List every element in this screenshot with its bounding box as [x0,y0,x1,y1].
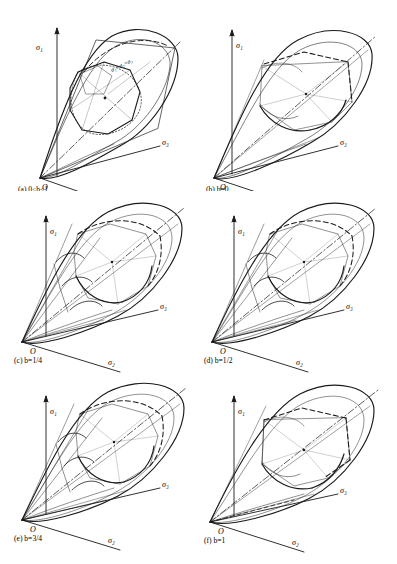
label-sigma2: σ₂ [292,538,299,547]
panel-caption-b: (b) b=0 [206,185,229,191]
label-sigma3: σ₃ [340,138,347,147]
hidden-top-edge [78,221,160,236]
label-sigma1: σ₁ [50,407,57,416]
cross-section-hexagon [260,62,352,130]
panel-caption-a: (a) 0≤b≤1 [18,185,48,191]
hidden-cap-edge [84,40,168,72]
axis-sigma2 [40,178,120,191]
label-sigma2: σ₂ [108,358,115,367]
label-origin: O [30,347,36,356]
label-origin: O [218,527,224,536]
outer-yield-surface [40,30,178,179]
panel-b: σ₁ σ₃ σ₂ O (b) b=0 [198,6,396,191]
outer-yield-surface [214,31,372,179]
cone-generators [22,404,102,520]
label-sigma1: σ₁ [50,227,57,236]
label-sigma1: σ₁ [238,407,245,416]
panel-c: σ₁ σ₃ σ₂ O (c) b=1/4 [0,194,198,379]
panel-e: σ₁ σ₃ σ₂ O (e) b=3/4 [0,372,198,557]
label-sigma3: σ₃ [160,302,167,311]
label-sigma1: σ₁ [236,41,243,50]
label-sigma3: σ₃ [162,480,169,489]
panel-caption-e: (e) b=3/4 [14,534,42,543]
axis-sigma3 [212,310,344,342]
label-sigma2: σ₂ [296,358,303,367]
label-origin: O [220,347,226,356]
panel-caption-d: (d) b=1/2 [204,356,233,365]
label-sigma3: σ₃ [340,486,347,495]
label-sigma1: σ₁ [238,227,245,236]
figure-stress-space-yield-surfaces: σ₁ σ₃ σ₂ O σ₁=σ₂=σ₃ (a) 0≤b≤1 [0,0,397,564]
label-sigma3: σ₃ [346,302,353,311]
label-sigma1: σ₁ [36,43,43,52]
label-sigma2: σ₂ [108,536,115,545]
panel-f: σ₁ σ₃ σ₂ O (f) b=1 [198,372,396,557]
hydrostatic-axis [210,390,378,522]
panel-d: σ₁ σ₃ σ₂ O (d) b=1/2 [198,194,396,379]
panel-a: σ₁ σ₃ σ₂ O σ₁=σ₂=σ₃ (a) 0≤b≤1 [0,6,198,191]
panel-caption-f: (f) b=1 [204,536,226,545]
label-sigma3: σ₃ [162,138,169,147]
panel-caption-c: (c) b=1/4 [14,356,42,365]
label-origin: O [30,525,36,534]
hidden-top-edge [270,221,352,236]
